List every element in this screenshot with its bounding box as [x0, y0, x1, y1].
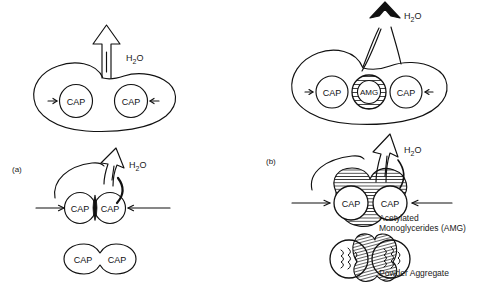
cap-label-b-mid-right: CAP: [381, 199, 400, 209]
panel-label-b: (b): [266, 157, 276, 166]
powder-sphere-b-bottom-left: [330, 240, 368, 278]
amg-caption-line2: Monoglycerides (AMG): [379, 223, 466, 234]
cap-label-a-mid-right: CAP: [101, 204, 120, 214]
flow-curve-a-mid-right: [117, 178, 122, 203]
cap-label-b-top-left: CAP: [323, 88, 342, 98]
amg-caption-line1: Acetylated: [379, 213, 419, 224]
cap-label-a-bottom-left: CAP: [74, 255, 93, 265]
cap-label-a-mid-left: CAP: [71, 204, 90, 214]
panel-b-middle-stage: [292, 134, 452, 226]
evaporation-stream-b-top-right: [391, 27, 401, 64]
water-label-a-mid: H2O: [129, 160, 146, 172]
bridge-meniscus-a-mid: [93, 196, 97, 221]
amg-label-b-top: AMG: [360, 88, 378, 97]
panel-label-a: (a): [12, 165, 22, 174]
evaporation-arrowhead-b-top: [370, 2, 400, 18]
water-label-b-mid: H2O: [404, 145, 421, 157]
cap-label-a-bottom-right: CAP: [108, 255, 127, 265]
evaporation-stream-b-top-left: [363, 28, 379, 67]
water-label-b-top: H2O: [404, 11, 421, 23]
evaporation-stream-b-top-left2: [362, 29, 381, 71]
panel-b-top-stage: [292, 27, 447, 124]
panel-a-top-stage: [34, 25, 176, 131]
cap-label-b-top-right: CAP: [397, 88, 416, 98]
cap-label-b-mid-left: CAP: [342, 199, 361, 209]
water-label-a-top: H2O: [126, 53, 143, 65]
cap-label-a-top-left: CAP: [67, 97, 86, 107]
cap-label-a-top-right: CAP: [122, 97, 141, 107]
figure-canvas: CAP CAP CAP CAP CAP CAP CAP AMG CAP CAP …: [0, 0, 484, 291]
droplet-outline-a-top: [34, 63, 176, 132]
powder-aggregate-caption: Powder Aggregate: [379, 268, 449, 279]
